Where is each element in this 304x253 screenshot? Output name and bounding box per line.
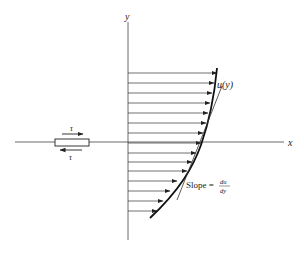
slope-label: Slope = [186, 180, 216, 190]
profile-label: u(y) [217, 79, 234, 91]
fluid-element [55, 139, 89, 146]
shear-stress-top-label: τ [70, 124, 74, 133]
y-axis-label: y [124, 11, 130, 22]
slope-denominator: dy [220, 187, 226, 194]
shear-stress-bottom-label: τ [69, 153, 73, 162]
velocity-profile-diagram: x y u(y) Slope = du dy τ τ [0, 0, 304, 253]
slope-numerator: du [220, 178, 227, 185]
x-axis-label: x [287, 137, 293, 148]
